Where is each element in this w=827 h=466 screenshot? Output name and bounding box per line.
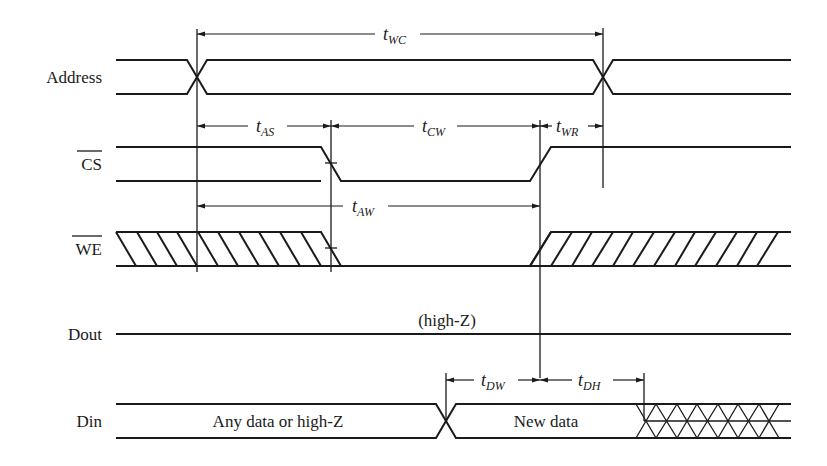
- timing-twc: tWC: [197, 24, 603, 47]
- svg-text:WE: WE: [76, 240, 102, 259]
- signal-label-cs: CS: [77, 151, 102, 174]
- svg-text:tWC: tWC: [383, 24, 407, 47]
- we-waveform: [116, 232, 791, 266]
- svg-text:CS: CS: [81, 155, 102, 174]
- signal-label-din: Din: [77, 412, 103, 431]
- timing-diagram: Address CS WE Dout Din: [0, 0, 827, 466]
- din-before-label: Any data or high-Z: [213, 412, 344, 431]
- signal-label-address: Address: [46, 68, 102, 87]
- timing-twr: tWR: [540, 116, 603, 139]
- svg-text:tDH: tDH: [578, 370, 602, 393]
- svg-text:tCW: tCW: [422, 116, 446, 139]
- din-valid-label: New data: [514, 412, 579, 431]
- reference-lines: [197, 28, 644, 421]
- svg-text:tAW: tAW: [352, 196, 375, 219]
- timing-tdw: tDW: [446, 370, 540, 393]
- timing-tcw: tCW: [331, 116, 540, 139]
- we-hatch-right: [530, 232, 778, 266]
- signal-label-dout: Dout: [68, 325, 102, 344]
- we-hatch-left: [116, 232, 321, 266]
- svg-text:tWR: tWR: [556, 116, 579, 139]
- timing-taw: tAW: [197, 196, 540, 219]
- svg-text:tAS: tAS: [256, 116, 274, 139]
- timing-tas: tAS: [197, 116, 331, 139]
- timing-tdh: tDH: [540, 370, 644, 393]
- cs-waveform: [116, 147, 791, 181]
- signal-label-we: WE: [72, 236, 102, 259]
- svg-text:tDW: tDW: [481, 370, 506, 393]
- dout-state-label: (high-Z): [418, 311, 476, 330]
- address-waveform: [116, 60, 791, 94]
